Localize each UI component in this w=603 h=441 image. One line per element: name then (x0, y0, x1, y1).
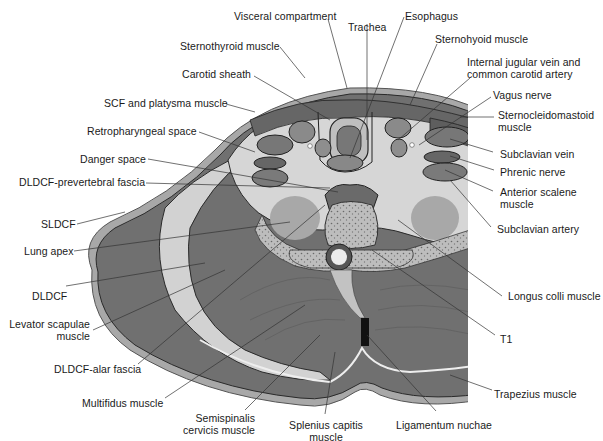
label-phrenic-nerve: Phrenic nerve (500, 166, 565, 178)
label-subclavian-artery: Subclavian artery (497, 223, 579, 235)
label-danger-space: Danger space (80, 153, 146, 165)
label-t1: T1 (500, 333, 512, 345)
esophagus-shape (327, 155, 363, 171)
label-dldcf-prevertebral: DLDCF-prevertebral fascia (19, 176, 145, 188)
phrenic-scalene-shape (424, 151, 460, 163)
label-dldcf: DLDCF (32, 290, 67, 302)
left-ijv (289, 121, 315, 143)
label-longus-colli: Longus colli muscle (508, 290, 601, 302)
label-lung-apex: Lung apex (24, 245, 74, 257)
subclavian-artery-shape (423, 163, 467, 181)
ligamentum-nuchae-shape (361, 318, 369, 346)
label-esophagus: Esophagus (405, 10, 458, 22)
label-levator-scapulae: Levator scapulae muscle (8, 318, 90, 342)
label-subclavian-vein: Subclavian vein (500, 148, 574, 160)
label-ijv-and-cca: Internal jugular vein and common carotid… (467, 56, 580, 80)
label-carotid-sheath: Carotid sheath (182, 68, 251, 80)
label-sldcf: SLDCF (41, 218, 76, 230)
right-ijv (385, 118, 411, 138)
label-splenius-capitis: Splenius capitis muscle (284, 419, 368, 441)
label-sternocleidomastoid: Sternocleidomastoid muscle (498, 109, 594, 133)
left-cca (315, 139, 331, 157)
left-lung-apex (270, 196, 320, 240)
label-sternothyroid-muscle: Sternothyroid muscle (180, 40, 280, 52)
label-dldcf-alar-fascia: DLDCF-alar fascia (54, 363, 141, 375)
label-sternohyoid-muscle: Sternohyoid muscle (435, 33, 528, 45)
label-anterior-scalene: Anterior scalene muscle (500, 186, 577, 210)
label-retropharyngeal-space: Retropharyngeal space (87, 125, 197, 137)
label-semispinalis-cervicis: Semispinalis cervicis muscle (175, 412, 255, 436)
label-scf-platysma: SCF and platysma muscle (104, 97, 228, 109)
label-trachea: Trachea (348, 21, 386, 33)
label-vagus-nerve: Vagus nerve (493, 89, 552, 101)
label-trapezius-muscle: Trapezius muscle (494, 388, 577, 400)
right-cca (391, 139, 407, 157)
label-multifidus-muscle: Multifidus muscle (82, 397, 163, 409)
t1-vertebral-body (325, 202, 378, 249)
label-visceral-compartment: Visceral compartment (234, 10, 336, 22)
right-lung-apex (411, 196, 459, 240)
label-ligamentum-nuchae: Ligamentum nuchae (396, 419, 492, 431)
anatomy-figure: Visceral compartment Trachea Esophagus S… (0, 0, 603, 441)
